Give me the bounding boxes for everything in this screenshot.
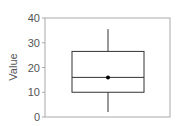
y-axis-label: Value <box>7 53 19 80</box>
box-element <box>72 29 144 112</box>
y-tick-label: 20 <box>28 62 40 74</box>
y-axis-ticks: 010203040 <box>28 12 45 123</box>
box-plot-chart: 010203040 Value <box>0 0 177 126</box>
y-tick-label: 0 <box>34 111 40 123</box>
y-tick-label: 40 <box>28 12 40 24</box>
iqr-box <box>72 51 144 92</box>
y-tick-label: 10 <box>28 86 40 98</box>
mean-marker <box>106 75 110 79</box>
y-tick-label: 30 <box>28 37 40 49</box>
